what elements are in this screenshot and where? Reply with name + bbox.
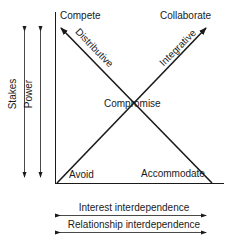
label-accommodate: Accommodate bbox=[141, 168, 205, 180]
conflict-styles-diagram: Compete Collaborate Compromise Avoid Acc… bbox=[0, 0, 236, 248]
label-stakes: Stakes bbox=[7, 76, 19, 112]
label-avoid: Avoid bbox=[69, 169, 94, 181]
label-compromise: Compromise bbox=[104, 98, 161, 110]
label-interest-interdependence: Interest interdependence bbox=[60, 202, 208, 214]
label-relationship-interdependence: Relationship interdependence bbox=[60, 219, 208, 231]
label-power: Power bbox=[23, 76, 35, 112]
label-collaborate: Collaborate bbox=[160, 10, 211, 22]
label-compete: Compete bbox=[60, 10, 101, 22]
